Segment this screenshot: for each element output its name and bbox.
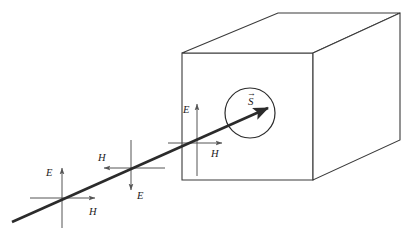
e-label-2: E (136, 190, 144, 201)
figure-canvas: E H E H E H → S (0, 0, 419, 234)
em-wave-figure: E H E H E H → S (0, 0, 419, 234)
e-label-3: E (182, 104, 190, 115)
h-label-3: H (210, 148, 220, 159)
h-label-1: H (88, 206, 98, 217)
s-vector-label: S (248, 95, 254, 107)
e-label-1: E (45, 167, 53, 178)
h-label-2: H (97, 152, 107, 163)
field-cluster-2: E H (97, 140, 165, 201)
